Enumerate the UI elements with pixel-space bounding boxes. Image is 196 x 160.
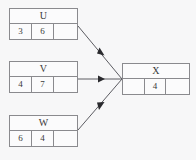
node-w-cell-1[interactable]: 4	[32, 131, 54, 146]
edge-w-to-x-arrowhead	[97, 102, 105, 110]
node-u-cell-0[interactable]: 3	[10, 24, 32, 39]
node-u-title: U	[10, 9, 77, 24]
node-w-title: W	[10, 116, 77, 131]
node-u-cell-2[interactable]	[54, 24, 77, 39]
edge-v-to-x-arrowhead	[98, 76, 105, 83]
node-u[interactable]: U 3 6	[9, 8, 78, 40]
edge-u-to-x-arrowhead	[97, 48, 105, 56]
node-x-cell-1[interactable]: 4	[145, 79, 167, 94]
edge-u-to-x	[78, 26, 122, 79]
node-x-cells: 4	[123, 79, 189, 94]
edge-w-to-x	[78, 79, 122, 130]
node-x-cell-0[interactable]	[123, 79, 145, 94]
node-w[interactable]: W 6 4	[9, 115, 78, 147]
node-v[interactable]: V 4 7	[9, 61, 78, 93]
node-x-cell-2[interactable]	[166, 79, 189, 94]
node-u-cells: 3 6	[10, 24, 77, 39]
node-v-cell-0[interactable]: 4	[10, 77, 32, 92]
node-v-cell-2[interactable]	[54, 77, 77, 92]
node-v-title: V	[10, 62, 77, 77]
node-w-cell-0[interactable]: 6	[10, 131, 32, 146]
node-x[interactable]: X 4	[122, 63, 190, 95]
node-v-cells: 4 7	[10, 77, 77, 92]
diagram-canvas: U 3 6 V 4 7 W 6 4 X 4	[0, 0, 196, 160]
node-w-cell-2[interactable]	[54, 131, 77, 146]
node-w-cells: 6 4	[10, 131, 77, 146]
node-u-cell-1[interactable]: 6	[32, 24, 54, 39]
node-v-cell-1[interactable]: 7	[32, 77, 54, 92]
node-x-title: X	[123, 64, 189, 79]
